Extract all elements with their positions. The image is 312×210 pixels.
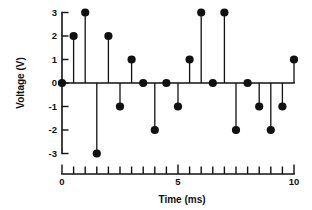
stem-marker bbox=[244, 79, 252, 87]
y-tick-label: 2 bbox=[52, 30, 57, 41]
y-axis-title: Voltage (V) bbox=[15, 57, 26, 108]
stem-marker bbox=[70, 32, 78, 40]
stem-marker bbox=[116, 102, 124, 110]
y-tick-label: 3 bbox=[52, 7, 57, 18]
y-tick-label: 1 bbox=[52, 54, 58, 65]
stem-marker bbox=[278, 102, 286, 110]
stem-marker bbox=[104, 32, 112, 40]
x-axis-tick-labels: 0510 bbox=[59, 176, 299, 187]
stem-marker bbox=[197, 8, 205, 16]
y-tick-label: 0 bbox=[52, 77, 57, 88]
stem-marker bbox=[232, 126, 240, 134]
x-axis-ticks bbox=[62, 165, 294, 175]
stem-marker bbox=[128, 55, 136, 63]
stem-marker bbox=[290, 55, 298, 63]
stem-marker bbox=[162, 79, 170, 87]
stem-marker bbox=[151, 126, 159, 134]
stem-marker bbox=[186, 55, 194, 63]
stem-marker bbox=[220, 8, 228, 16]
stem-marker bbox=[209, 79, 217, 87]
stem-marker bbox=[255, 102, 263, 110]
y-tick-label: -2 bbox=[49, 124, 57, 135]
stem-plot-figure: 3210-1-2-3 0510 Voltage (V) Time (ms) bbox=[0, 0, 312, 210]
stem-marker bbox=[58, 79, 66, 87]
stem-marker bbox=[139, 79, 147, 87]
stem-marker bbox=[81, 8, 89, 16]
stem-marker bbox=[93, 149, 101, 157]
stem-marker bbox=[174, 102, 182, 110]
x-tick-label: 5 bbox=[175, 176, 181, 187]
x-tick-label: 10 bbox=[289, 176, 300, 187]
x-axis-title: Time (ms) bbox=[158, 194, 205, 205]
stem-marker bbox=[267, 126, 275, 134]
y-tick-label: -1 bbox=[49, 101, 58, 112]
x-tick-label: 0 bbox=[59, 176, 64, 187]
y-tick-label: -3 bbox=[49, 148, 57, 159]
y-axis-tick-labels: 3210-1-2-3 bbox=[49, 7, 58, 159]
voltage-vs-time-stem-chart: 3210-1-2-3 0510 Voltage (V) Time (ms) bbox=[0, 0, 312, 210]
